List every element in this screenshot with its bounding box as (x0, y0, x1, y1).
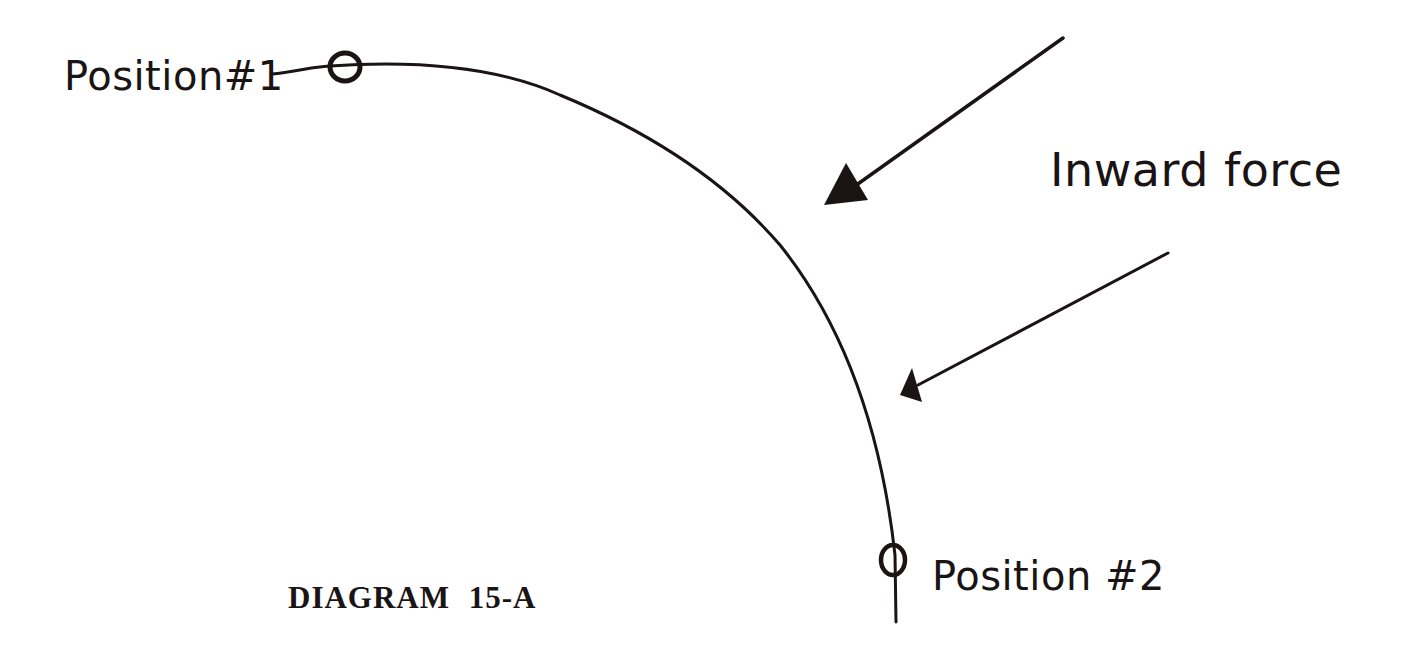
lower-inward-force-arrow (900, 253, 1168, 402)
position-1-label: Position#1 (64, 53, 284, 99)
circular-motion-diagram: Position#1 Inward force Position #2 (0, 0, 1403, 656)
circular-path (330, 64, 896, 622)
upper-inward-force-arrow (824, 38, 1063, 205)
diagram-title: DIAGRAM 15-A (288, 580, 536, 616)
arrowhead-icon (824, 163, 868, 205)
position-2-label: Position #2 (932, 553, 1165, 599)
inward-force-label: Inward force (1050, 143, 1342, 197)
